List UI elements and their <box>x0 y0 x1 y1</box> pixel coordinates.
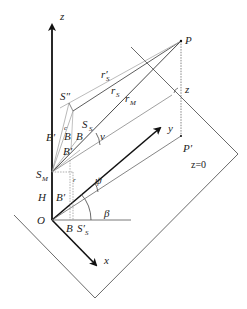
point-P <box>180 40 182 42</box>
psi-label: ψ <box>95 174 102 186</box>
x-axis <box>52 220 96 265</box>
S-double-prime-to-S-S <box>69 103 73 111</box>
S-double-prime-label: S″ <box>60 90 71 102</box>
beta-label: β <box>103 207 110 219</box>
r-S-prime-subscript: S <box>106 75 110 83</box>
origin-label: O <box>37 214 45 226</box>
point-P-prime-label: P′ <box>182 142 193 154</box>
r-S-subscript: S <box>116 91 120 99</box>
height-label: H <box>37 191 47 203</box>
B-bottom-label: B <box>66 222 73 234</box>
x-axis-label: x <box>103 254 109 266</box>
r-M-subscript: M <box>129 99 137 107</box>
plane-z0 <box>14 47 238 298</box>
point-P-prime <box>180 135 182 137</box>
plane-label: z=0 <box>191 159 206 170</box>
B-upper-label: B <box>64 130 71 142</box>
B-prime-upper-label: B′ <box>46 131 56 143</box>
geometry-diagram: z x y O H P P′ z z=0 S″ S S S M r′ S r S… <box>0 0 247 309</box>
S-M-subscript: M <box>41 175 49 183</box>
B-prime-mid-label: B′ <box>63 145 73 157</box>
point-P-label: P <box>184 34 192 46</box>
B-right-label: B <box>76 130 83 142</box>
nu-label: ν <box>100 130 105 142</box>
z-at-P-label: z <box>184 83 190 95</box>
y-axis-label: y <box>167 122 173 134</box>
diagram-svg: z x y O H P P′ z z=0 S″ S S S M r′ S r S… <box>0 0 247 309</box>
B-prime-lower-label: B′ <box>56 191 66 203</box>
S-S-subscript: S <box>89 125 93 133</box>
small-r-label: r <box>73 176 76 184</box>
S-S-prime-bottom-subscript: S <box>85 229 89 237</box>
z-axis-label: z <box>59 10 65 22</box>
S-S-label: S <box>82 118 88 130</box>
